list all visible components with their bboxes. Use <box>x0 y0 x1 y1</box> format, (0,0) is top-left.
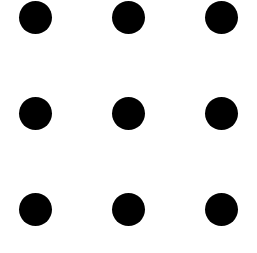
dot-r1-c2 <box>205 97 238 130</box>
dot-r0-c1 <box>112 1 145 34</box>
dot-r1-c0 <box>19 97 52 130</box>
dot-r2-c1 <box>112 193 145 226</box>
dot-r1-c1 <box>112 97 145 130</box>
dot-r0-c0 <box>19 1 52 34</box>
dot-r2-c2 <box>205 193 238 226</box>
dot-r0-c2 <box>205 1 238 34</box>
dot-r2-c0 <box>19 193 52 226</box>
nine-dot-grid <box>0 0 257 253</box>
